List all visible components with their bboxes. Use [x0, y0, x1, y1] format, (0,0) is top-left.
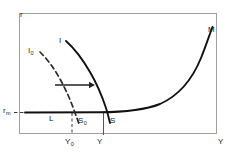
curve-label-l: L: [49, 115, 53, 123]
x-axis-tick-label-y0: Y0: [65, 138, 73, 146]
i0-subscript: 0: [31, 50, 34, 56]
x-axis-tick-label-y: Y: [97, 138, 102, 146]
s0-subscript: 0: [84, 120, 87, 126]
y0-base: Y: [65, 137, 70, 146]
i0-base: I: [28, 46, 30, 55]
curve-label-i0: I0: [28, 47, 33, 55]
curve-label-m: M: [208, 26, 215, 34]
y-axis-label: r: [20, 11, 23, 19]
y0-subscript: 0: [71, 141, 74, 147]
curve-label-s0: S0: [78, 117, 86, 125]
curve-label-s: S: [110, 117, 115, 125]
is-lm-diagram: r rm I0 I L S0 S M Y0 Y Y: [0, 0, 237, 155]
shift-arrow: [55, 82, 95, 88]
rm-subscript: m: [6, 110, 11, 116]
curve-label-i: I: [59, 37, 61, 45]
i-curve: [66, 41, 110, 123]
s0-base: S: [78, 116, 83, 125]
x-axis-label: Y: [218, 138, 223, 146]
rm-axis-tick-label: rm: [3, 107, 10, 115]
lm-curve: [25, 27, 213, 113]
plot-canvas: [0, 0, 237, 155]
